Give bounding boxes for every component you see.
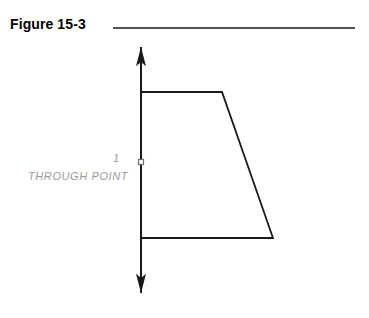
through-point-marker-icon [139,160,144,165]
figure-canvas: Figure 15-3 1 THROUGH POINT [0,0,369,318]
trapezoid-profile [141,92,273,238]
figure-drawing [0,0,369,318]
through-point-label: THROUGH POINT [28,170,128,182]
through-point-index-label: 1 [113,152,119,164]
